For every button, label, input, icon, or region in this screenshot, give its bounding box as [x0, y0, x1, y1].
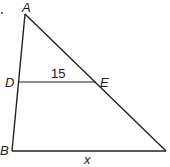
triangle-diagram: A D E B 15 x — [0, 0, 170, 167]
marker-dot — [1, 12, 3, 14]
vertex-label-b: B — [0, 143, 9, 158]
vertex-label-e: E — [100, 75, 109, 90]
measure-bc-label: x — [83, 152, 91, 167]
vertex-label-a: A — [21, 0, 31, 15]
measure-de-label: 15 — [51, 66, 65, 81]
vertex-label-d: D — [5, 75, 14, 90]
